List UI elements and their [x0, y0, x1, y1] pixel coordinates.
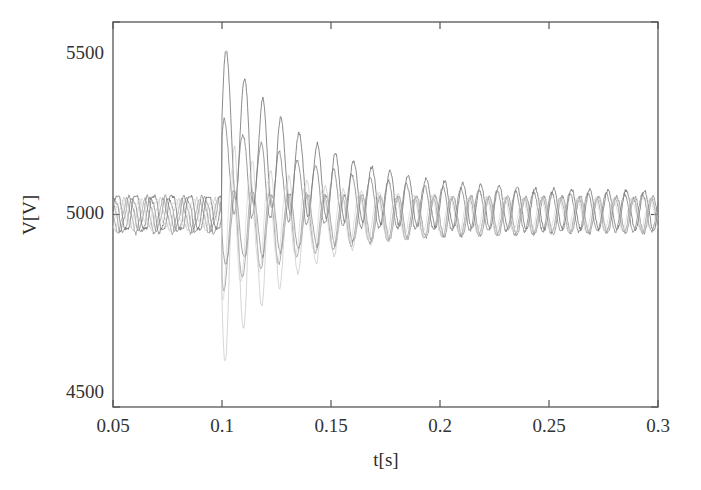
voltage-transient-chart: 0.05 0.1 0.15 0.2 0.25 0.3 4500 5000 550…: [0, 0, 701, 490]
x-tick-label-4: 0.25: [532, 415, 565, 436]
x-tick-label-1: 0.1: [210, 415, 234, 436]
x-axis-title: t[s]: [373, 449, 398, 470]
y-axis-title: V[V]: [19, 195, 40, 235]
x-tick-label-3: 0.2: [428, 415, 452, 436]
y-tick-label-1: 5000: [66, 202, 104, 223]
x-tick-label-2: 0.15: [314, 415, 347, 436]
y-tick-label-2: 5500: [66, 42, 104, 63]
x-tick-label-5: 0.3: [646, 415, 670, 436]
x-tick-label-0: 0.05: [96, 415, 129, 436]
y-tick-label-0: 4500: [66, 381, 104, 402]
